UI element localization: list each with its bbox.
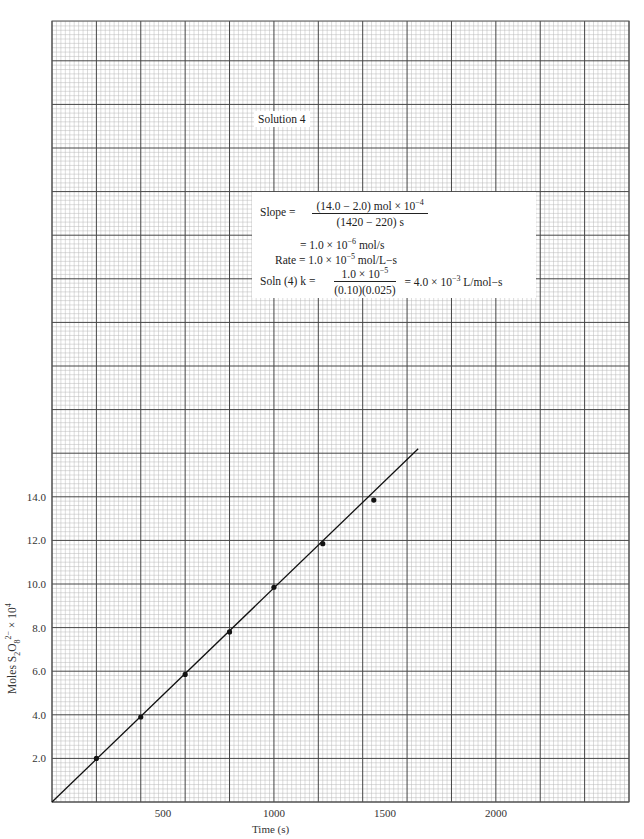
data-point [227, 629, 232, 634]
slope-denominator: (1420 − 220) s [312, 214, 427, 228]
y-axis-label: Moles S2O82− × 104 [4, 584, 21, 714]
x-tick: 500 [143, 807, 183, 819]
data-point [94, 756, 99, 761]
solution-label: Solution 4 [254, 111, 310, 127]
data-point [183, 672, 188, 677]
slope-fraction: (14.0 − 2.0) mol × 10−4 (1420 − 220) s [312, 198, 427, 228]
minor-grid [52, 21, 629, 802]
slope-equation: Slope = (14.0 − 2.0) mol × 10−4 (1420 − … [260, 198, 428, 228]
slope-result: = 1.0 × 10−6 mol/s [300, 237, 384, 251]
x-tick: 1500 [365, 807, 405, 819]
data-point [371, 497, 376, 502]
data-point [138, 714, 143, 719]
y-tick: 14.0 [6, 491, 46, 503]
chart-plot-area [0, 0, 644, 839]
best-fit-line [52, 449, 418, 802]
calculation-box: Slope = (14.0 − 2.0) mol × 10−4 (1420 − … [252, 192, 536, 298]
x-axis-label: Time (s) [252, 823, 289, 835]
slope-numerator: (14.0 − 2.0) mol × 10 [316, 200, 415, 212]
data-point [271, 585, 276, 590]
y-tick: 2.0 [6, 752, 46, 764]
data-point [320, 541, 325, 546]
x-tick: 2000 [476, 807, 516, 819]
k-result: = 4.0 × 10−3 L/mol−s [404, 276, 502, 288]
x-tick: 1000 [254, 807, 294, 819]
rate-result: Rate = 1.0 × 10−5 mol/L−s [275, 252, 397, 266]
k-equation: Soln (4) k = 1.0 × 10−5 (0.10)(0.025) = … [260, 266, 502, 296]
slope-label: Slope = [260, 206, 296, 218]
k-fraction: 1.0 × 10−5 (0.10)(0.025) [334, 266, 395, 296]
y-tick: 12.0 [6, 534, 46, 546]
